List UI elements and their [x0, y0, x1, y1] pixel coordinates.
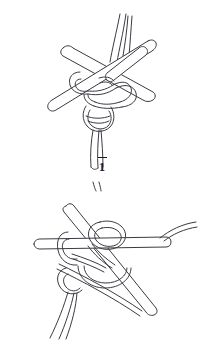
figure-1-caption-overline — [98, 157, 107, 158]
figure-1-caption: 1 — [95, 157, 109, 173]
figure-1-artwork — [0, 0, 198, 180]
rod-horizontal — [34, 237, 171, 249]
rod-steep-diagonal — [63, 204, 157, 316]
cord-ends-figure-2 — [50, 292, 77, 339]
figure-1: 1 — [0, 0, 198, 180]
illustration-sheet: 1 — [0, 0, 198, 352]
figure-2-artwork — [0, 180, 198, 352]
figure-1-caption-number: 1 — [99, 159, 106, 174]
knot-collar-figure-1 — [83, 106, 114, 131]
top-cord-tips-figure-2 — [93, 182, 101, 191]
figure-2: 2 — [0, 180, 198, 352]
